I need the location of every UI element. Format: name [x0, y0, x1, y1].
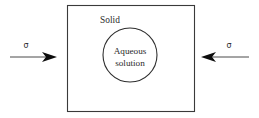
aqueous-label-line1: Aqueous	[114, 46, 147, 56]
stress-arrow-left	[10, 52, 57, 62]
aqueous-label-line2: solution	[115, 58, 145, 68]
solid-label: Solid	[100, 15, 120, 25]
diagram-canvas: Solid Aqueous solution σ σ	[0, 0, 259, 118]
stress-label-left: σ	[23, 41, 28, 50]
stress-arrow-right	[201, 52, 249, 62]
stress-label-right: σ	[226, 41, 231, 50]
